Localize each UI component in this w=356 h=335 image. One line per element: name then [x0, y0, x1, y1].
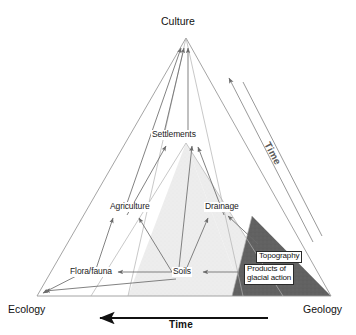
corner-label-culture: Culture: [161, 15, 195, 27]
node-agriculture: Agriculture: [109, 202, 151, 212]
axis-label-time-bottom: Time: [169, 319, 193, 330]
node-products-of-glacial-action: Products of glacial action: [244, 264, 294, 285]
node-topography: Topography: [256, 251, 302, 263]
node-flora-fauna: Flora/fauna: [69, 267, 113, 277]
corner-label-geology: Geology: [303, 303, 342, 315]
node-soils: Soils: [172, 267, 192, 277]
diagram-canvas: [0, 0, 356, 335]
ternary-diagram-figure: Culture Ecology Geology Settlements Agri…: [0, 0, 356, 335]
node-drainage: Drainage: [204, 202, 240, 212]
node-settlements: Settlements: [151, 130, 197, 140]
corner-label-ecology: Ecology: [8, 303, 45, 315]
